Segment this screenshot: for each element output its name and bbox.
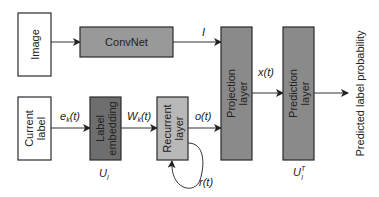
prediction-layer-node: Prediction layer — [283, 27, 314, 160]
edge-label-ot: o(t) — [195, 110, 212, 122]
recurrent-layer-line2: layer — [173, 116, 185, 140]
projection-layer-line1: Projection — [225, 69, 237, 118]
matrix-ult: UTl — [293, 165, 306, 181]
matrix-ul: Ul — [99, 167, 109, 181]
label-embedding-line1: Label — [94, 115, 106, 142]
projection-layer-node: Projection layer — [221, 27, 252, 160]
recurrent-layer-line1: Recurrent — [161, 104, 173, 152]
prediction-layer-line1: Prediction — [287, 69, 299, 118]
prediction-layer-line2: layer — [299, 81, 311, 105]
edge-label-xt: x(t) — [257, 66, 274, 78]
output-label: Predicted label probability — [354, 30, 366, 156]
diagram-canvas: Image ConvNet I Current label ek(t) Labe… — [0, 0, 379, 197]
convnet-node: ConvNet — [80, 27, 173, 57]
current-label-line2: label — [35, 117, 47, 140]
current-label-node: Current label — [18, 97, 51, 160]
image-node: Image — [18, 13, 51, 76]
convnet-label: ConvNet — [105, 36, 148, 48]
projection-layer-line2: layer — [237, 81, 249, 105]
label-embedding-node: Label embedding — [90, 97, 121, 160]
current-label-line1: Current — [23, 110, 35, 147]
edge-label-wk: Wk(t) — [127, 110, 152, 123]
label-embedding-line2: embedding — [106, 101, 118, 155]
edge-label-ek: ek(t) — [60, 110, 80, 123]
edge-label-i: I — [202, 26, 205, 38]
recurrent-layer-node: Recurrent layer — [157, 97, 188, 160]
edge-label-rt: r(t) — [199, 176, 213, 188]
image-label: Image — [29, 29, 41, 60]
